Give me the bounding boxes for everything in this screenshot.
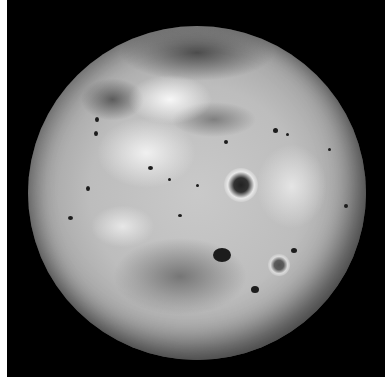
dark-spot — [286, 133, 289, 136]
dark-spot — [213, 248, 231, 262]
dark-spot — [251, 286, 259, 293]
dark-spot — [224, 140, 228, 144]
dark-spot — [196, 184, 199, 187]
dark-spot — [291, 248, 297, 253]
dark-spot — [168, 178, 171, 181]
dark-spot — [95, 117, 99, 122]
dark-spot — [328, 148, 331, 151]
dark-spot — [86, 186, 90, 191]
dark-spot — [178, 214, 182, 217]
moon-io — [28, 26, 366, 360]
volcanic-crater — [268, 254, 290, 276]
image-frame — [7, 0, 385, 377]
volcanic-crater — [224, 168, 258, 202]
dark-spot — [344, 204, 348, 208]
dark-spot — [68, 216, 73, 220]
dark-spot — [273, 128, 278, 133]
dark-spot — [94, 131, 98, 136]
dark-spot — [148, 166, 153, 170]
